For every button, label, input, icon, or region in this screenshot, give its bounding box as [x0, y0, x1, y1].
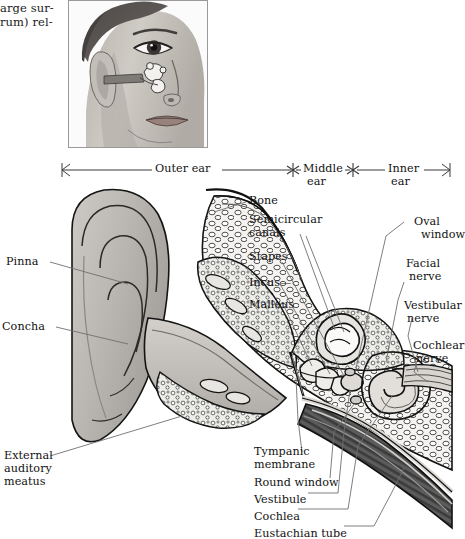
label-vestibular-nerve-line1: Vestibular	[404, 300, 462, 313]
label-concha: Concha	[2, 321, 45, 334]
label-pinna: Pinna	[6, 256, 38, 269]
label-tympanic-membrane-line2: membrane	[254, 459, 315, 472]
label-round-window: Round window	[254, 477, 339, 490]
label-oval-window-line1: Oval	[414, 216, 440, 229]
label-external-auditory-meatus-line3: meatus	[4, 476, 46, 489]
pinna-shape	[72, 190, 169, 442]
label-oval-window-line2: window	[421, 229, 465, 242]
label-semicircular-canals-line2: canals	[249, 227, 285, 240]
label-external-auditory-meatus-line1: External	[4, 450, 53, 463]
round-window-shape	[351, 396, 362, 404]
label-cochlea: Cochlea	[254, 511, 300, 524]
label-semicircular-canals-line1: Semicircular	[249, 214, 322, 227]
label-stapes: Stapes	[249, 251, 288, 264]
label-vestibule: Vestibule	[254, 494, 307, 507]
oval-window-shape	[345, 368, 355, 375]
label-facial-nerve-line2: nerve	[409, 271, 441, 284]
label-malleus: Malleus	[249, 299, 294, 312]
label-tympanic-membrane-line1: Tympanic	[254, 446, 310, 459]
label-cochlear-nerve-line1: Cochlear	[413, 340, 464, 353]
label-eustachian-tube: Eustachian tube	[254, 528, 347, 539]
label-incus: Incus—	[249, 277, 291, 290]
label-cochlear-nerve-line2: nerve	[416, 353, 448, 366]
label-bone: Bone	[249, 195, 278, 208]
label-facial-nerve-line1: Facial	[406, 258, 440, 271]
label-vestibular-nerve-line2: nerve	[407, 313, 439, 326]
label-external-auditory-meatus-line2: auditory	[4, 463, 52, 476]
